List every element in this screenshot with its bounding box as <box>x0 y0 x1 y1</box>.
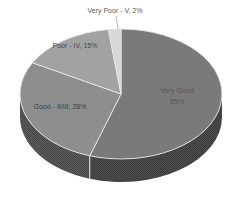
pie-chart: Very Poor - V, 2% Poor - IV, 15% Good - … <box>0 0 238 203</box>
pie-top-faces <box>20 29 222 159</box>
pie-3d-svg <box>0 0 238 203</box>
very-poor-leader-line <box>116 16 118 29</box>
